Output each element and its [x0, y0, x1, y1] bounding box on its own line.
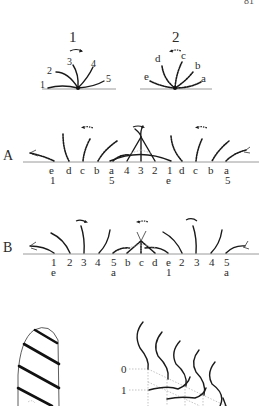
row-b-label: B — [3, 240, 12, 255]
cilium-1 — [48, 86, 78, 88]
label-d: d — [66, 164, 72, 176]
cilium — [212, 141, 229, 161]
cilium — [226, 246, 245, 253]
label-b: b — [125, 256, 131, 268]
stripe — [24, 344, 59, 364]
cilia-staircase: 0 1 — [121, 322, 226, 406]
arrowhead-icon — [136, 221, 140, 224]
cilium — [30, 246, 54, 253]
beat-arrow-left-icon — [84, 127, 93, 128]
label-3: 3 — [194, 256, 200, 268]
label-e: e — [166, 174, 171, 186]
label-c: c — [80, 164, 85, 176]
row-a-label: A — [3, 148, 14, 163]
cilium — [141, 137, 155, 161]
cilium — [194, 350, 205, 395]
label-4: 4 — [95, 256, 101, 268]
beat-arrow-right-icon — [133, 126, 143, 127]
cilium — [98, 141, 117, 161]
panel-2: 2 e d c b a — [140, 29, 212, 90]
beat-arrow-right-icon — [186, 219, 197, 221]
arrowhead-icon — [84, 220, 88, 223]
cilium-4 — [78, 67, 93, 88]
cilium — [163, 232, 182, 253]
cilium — [211, 230, 222, 253]
cilium-label-b: b — [195, 59, 201, 71]
label-4: 4 — [209, 256, 215, 268]
cilium-label-a: a — [201, 72, 206, 84]
label-b: b — [94, 164, 100, 176]
arrowhead-icon — [169, 50, 173, 53]
cilium-d — [162, 66, 175, 88]
label-5: 5 — [109, 174, 115, 186]
beat-arrow-left-icon — [139, 221, 148, 222]
axis-label-0: 0 — [121, 363, 127, 375]
cilium — [193, 226, 196, 253]
label-d: d — [152, 256, 158, 268]
cilium — [63, 134, 69, 161]
cilium-label-1: 1 — [40, 79, 45, 90]
label-1: 1 — [50, 174, 56, 186]
stripe — [18, 388, 52, 406]
cilium-label-4: 4 — [91, 58, 96, 69]
basal-body — [76, 86, 80, 90]
scientific-figure: 81 1 1 2 3 4 5 2 e d c b a A — [0, 0, 259, 406]
cilium — [156, 332, 169, 379]
cilium-label-5: 5 — [106, 73, 111, 84]
label-b: b — [208, 164, 214, 176]
cilium-recovery — [149, 377, 190, 390]
striped-cylinder — [18, 328, 59, 406]
label-2: 2 — [67, 256, 73, 268]
cilium — [127, 241, 141, 253]
cilium — [137, 322, 148, 369]
cilium — [171, 136, 182, 161]
label-3: 3 — [138, 164, 144, 176]
beat-arrow-left-icon — [172, 50, 181, 51]
cilium-label-2: 2 — [47, 65, 52, 76]
label-2: 2 — [179, 256, 185, 268]
label-d: d — [179, 164, 185, 176]
cilium-label-3: 3 — [67, 56, 72, 67]
cilium-recovery — [223, 398, 226, 406]
panel-1: 1 1 2 3 4 5 — [40, 29, 116, 90]
guide-line — [28, 401, 35, 403]
panel-2-title: 2 — [172, 29, 180, 45]
label-e: e — [51, 266, 56, 278]
cilium-tip — [137, 231, 146, 241]
label-1: 1 — [166, 266, 172, 278]
cilium-label-e: e — [144, 70, 149, 82]
stripe — [19, 366, 59, 388]
label-a: a — [224, 266, 229, 278]
cilium — [83, 139, 90, 161]
cilium — [81, 226, 84, 253]
cilium — [51, 233, 70, 253]
label-5: 5 — [225, 174, 231, 186]
cilium-label-d: d — [155, 52, 161, 64]
row-a-top-labels: e d c b a 4 3 2 1 d c b a — [49, 164, 229, 176]
panel-1-title: 1 — [69, 29, 77, 45]
label-a: a — [111, 266, 116, 278]
cilium — [196, 139, 202, 161]
basal-body — [173, 86, 177, 90]
stripe — [35, 330, 57, 343]
row-a: A e d c b a 4 — [3, 126, 259, 187]
cilium-tip — [243, 241, 249, 249]
guide-line — [129, 369, 148, 390]
page-number: 81 — [244, 0, 254, 6]
row-b: B 1 2 3 4 5 b c — [3, 219, 259, 278]
axis-label-1: 1 — [121, 384, 127, 396]
cilium — [99, 230, 110, 253]
label-3: 3 — [81, 256, 87, 268]
label-4: 4 — [124, 164, 130, 176]
label-2: 2 — [152, 164, 158, 176]
label-c: c — [193, 164, 198, 176]
beat-arrow-left-icon — [198, 127, 207, 128]
cilium — [174, 341, 187, 386]
cilium — [226, 150, 246, 161]
label-c: c — [139, 256, 144, 268]
cilium-label-c: c — [181, 49, 186, 61]
row-b-top-labels: 1 2 3 4 5 b c d e 2 3 4 5 — [51, 256, 230, 268]
cilium — [127, 137, 141, 161]
